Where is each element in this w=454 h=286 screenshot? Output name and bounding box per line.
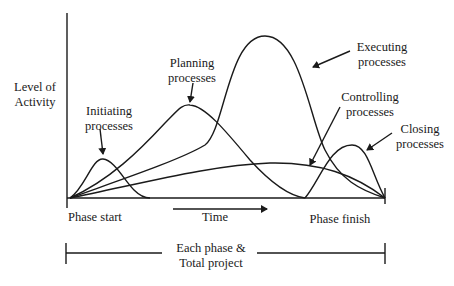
time-label: Time bbox=[195, 210, 235, 225]
controlling-label: Controlling processes bbox=[337, 90, 403, 120]
controlling-arrow bbox=[310, 107, 340, 165]
closing-arrow bbox=[367, 133, 392, 150]
process-group-interaction-diagram: Level of Activity Initiating processes P… bbox=[0, 0, 454, 286]
phase-finish-label: Phase finish bbox=[300, 212, 380, 227]
initiating-label: Initiating processes bbox=[80, 104, 138, 134]
closing-label: Closing processes bbox=[390, 122, 450, 152]
phase-start-label: Phase start bbox=[68, 210, 138, 225]
executing-label: Executing processes bbox=[350, 40, 414, 70]
executing-arrow bbox=[313, 51, 350, 67]
y-axis-label: Level of Activity bbox=[10, 80, 60, 110]
bracket-label: Each phase & Total project bbox=[170, 241, 252, 271]
planning-label: Planning processes bbox=[163, 56, 221, 86]
